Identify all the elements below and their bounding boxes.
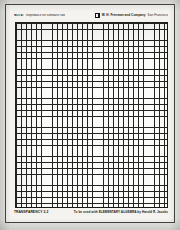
header-note-label: NOTE: — [14, 14, 24, 17]
publisher-colophon-icon — [95, 13, 100, 18]
transparency-page: NOTE: Reproduce on software rate W. H. F… — [5, 4, 175, 223]
scan-canvas: NOTE: Reproduce on software rate W. H. F… — [0, 0, 180, 230]
textbook-attribution: To be used with ELEMENTARY ALGEBRA by Ha… — [74, 211, 168, 214]
coordinate-grid — [15, 22, 168, 208]
header-right-group: W. H. Freeman and Company San Francisco — [95, 13, 168, 18]
transparency-number: TRANSPARENCY 2-2 — [14, 211, 48, 214]
publisher-name: W. H. Freeman and Company — [102, 14, 146, 17]
publisher-city: San Francisco — [148, 14, 168, 17]
header-note-text: Reproduce on software rate — [26, 14, 65, 17]
header-left-group: NOTE: Reproduce on software rate — [14, 14, 65, 17]
page-footer: TRANSPARENCY 2-2 To be used with ELEMENT… — [14, 209, 168, 217]
page-header: NOTE: Reproduce on software rate W. H. F… — [14, 11, 168, 20]
